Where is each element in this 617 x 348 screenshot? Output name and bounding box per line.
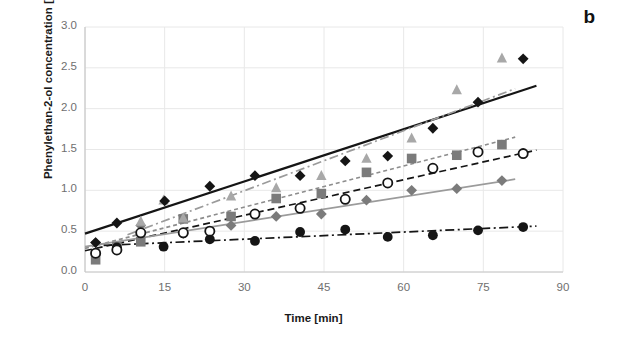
figure-panel-b: b Phenylethan-2-ol concentration [ppbv] … xyxy=(0,0,617,348)
marker-circle-filled xyxy=(250,236,260,246)
marker-diamond xyxy=(271,211,282,222)
marker-triangle xyxy=(226,190,236,200)
marker-diamond xyxy=(226,220,237,231)
marker-circle-open xyxy=(383,178,392,187)
marker-circle-filled xyxy=(383,232,393,242)
x-tick-label: 30 xyxy=(224,281,264,293)
marker-circle-filled xyxy=(159,242,169,252)
marker-square xyxy=(407,154,417,164)
series-series-black-circle xyxy=(112,222,528,252)
marker-square xyxy=(452,150,462,160)
marker-diamond xyxy=(340,156,351,167)
marker-diamond xyxy=(497,175,508,186)
x-tick-label: 45 xyxy=(304,281,344,293)
marker-diamond xyxy=(451,183,462,194)
y-tick-label: 2.5 xyxy=(41,60,77,72)
marker-circle-open xyxy=(519,149,528,158)
x-tick-label: 0 xyxy=(65,281,105,293)
marker-diamond xyxy=(427,123,438,134)
marker-triangle xyxy=(497,52,507,62)
marker-square xyxy=(226,212,236,222)
marker-circle-open xyxy=(91,249,100,258)
marker-circle-filled xyxy=(428,230,438,240)
marker-square xyxy=(362,168,372,178)
trendlines xyxy=(85,86,536,251)
marker-triangle xyxy=(316,170,326,180)
marker-circle-filled xyxy=(473,225,483,235)
y-tick-label: 0.0 xyxy=(41,264,77,276)
marker-circle-open xyxy=(136,228,145,237)
series-series-black-diamond xyxy=(90,53,528,248)
y-tick-label: 1.5 xyxy=(41,142,77,154)
marker-circle-open xyxy=(296,204,305,213)
marker-diamond xyxy=(159,196,170,207)
y-tick-label: 2.0 xyxy=(41,101,77,113)
marker-square xyxy=(497,140,507,150)
marker-circle-filled xyxy=(295,227,305,237)
marker-diamond xyxy=(382,151,393,162)
marker-circle-filled xyxy=(518,222,528,232)
series-series-open-circle xyxy=(91,147,528,257)
marker-circle-open xyxy=(341,195,350,204)
marker-square xyxy=(317,189,327,199)
marker-triangle xyxy=(406,132,416,142)
marker-circle-open xyxy=(179,228,188,237)
trendline-series-black-circle xyxy=(104,226,537,245)
marker-diamond xyxy=(111,218,122,229)
marker-square xyxy=(136,237,146,247)
marker-square xyxy=(271,194,281,204)
x-tick-label: 90 xyxy=(543,281,583,293)
marker-circle-open xyxy=(473,147,482,156)
y-tick-label: 1.0 xyxy=(41,182,77,194)
x-tick-label: 75 xyxy=(463,281,503,293)
plot-area xyxy=(0,0,617,348)
marker-circle-open xyxy=(205,227,214,236)
x-tick-label: 15 xyxy=(145,281,185,293)
marker-diamond xyxy=(518,53,529,64)
marker-circle-open xyxy=(250,209,259,218)
y-tick-label: 3.0 xyxy=(41,19,77,31)
marker-triangle xyxy=(452,84,462,94)
marker-circle-filled xyxy=(340,225,350,235)
marker-triangle xyxy=(271,182,281,192)
x-tick-label: 60 xyxy=(384,281,424,293)
marker-circle-open xyxy=(428,164,437,173)
marker-circle-open xyxy=(112,245,121,254)
y-tick-label: 0.5 xyxy=(41,223,77,235)
series-series-gray-square xyxy=(91,140,507,265)
marker-triangle xyxy=(361,153,371,163)
data-markers xyxy=(90,52,528,264)
